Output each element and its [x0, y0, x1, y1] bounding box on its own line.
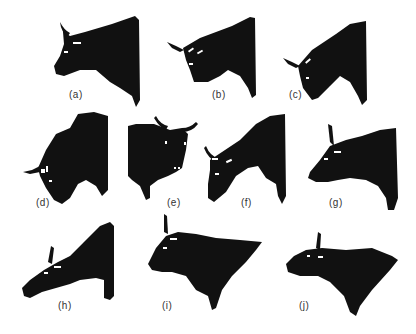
bull-heads-figure: (a) (b) (c) (d) [0, 0, 416, 334]
panel-label-j: (j) [299, 300, 309, 311]
bull-head-j-icon [0, 0, 416, 334]
